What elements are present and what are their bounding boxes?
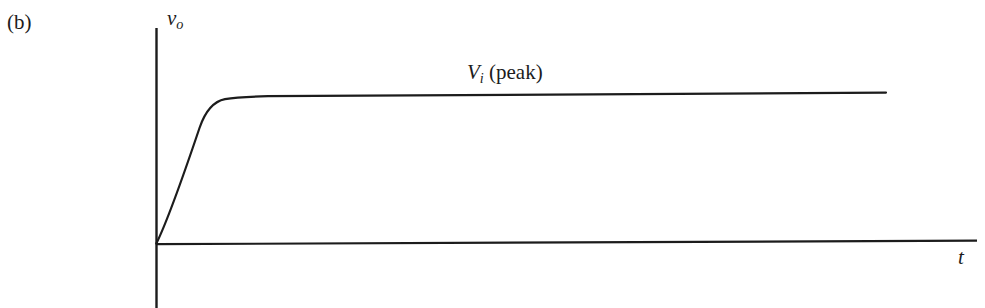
y-axis-label-subscript: o (176, 16, 183, 32)
y-axis-label-symbol: v (167, 6, 176, 30)
figure-panel-b: (b) vo t Vi (peak) (0, 0, 985, 308)
y-axis-label: vo (167, 8, 183, 31)
curve-label: Vi (peak) (467, 62, 543, 85)
output-voltage-curve (156, 93, 886, 244)
curve-label-symbol: V (467, 60, 480, 84)
curve-label-suffix: (peak) (484, 60, 543, 84)
x-axis-label: t (958, 247, 964, 268)
panel-label: (b) (7, 12, 32, 33)
x-axis-line (156, 241, 977, 245)
plot-area (0, 0, 985, 308)
